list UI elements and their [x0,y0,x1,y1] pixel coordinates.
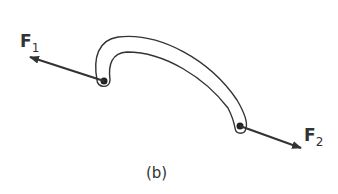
force-label-f2: F2 [304,125,323,149]
member-outer-edge [96,36,247,128]
force-arrow-f2 [240,126,301,148]
force-label-f1: F1 [20,31,39,55]
member-inner-edge [110,52,235,128]
curved-member [96,36,247,133]
force-arrow-f1 [30,57,104,81]
figure-caption: (b) [146,164,167,182]
two-force-member-diagram: F1 F2 (b) [0,0,338,194]
